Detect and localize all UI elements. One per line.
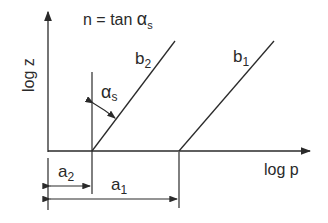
x-axis-label: log p — [264, 161, 299, 178]
angle-label: αs — [101, 82, 117, 104]
diagram-canvas: log z log p n = tan αs b2 b1 αs a2 a1 — [0, 0, 328, 223]
line-b1-label: b1 — [233, 47, 249, 69]
angle-arrow — [93, 103, 115, 118]
formula: n = tan αs — [83, 9, 153, 31]
dimension-a2-label: a2 — [58, 162, 74, 184]
line-b1 — [179, 41, 274, 151]
y-axis-label: log z — [20, 58, 37, 92]
line-b2-label: b2 — [135, 49, 151, 71]
dimension-a1-label: a1 — [111, 175, 127, 197]
